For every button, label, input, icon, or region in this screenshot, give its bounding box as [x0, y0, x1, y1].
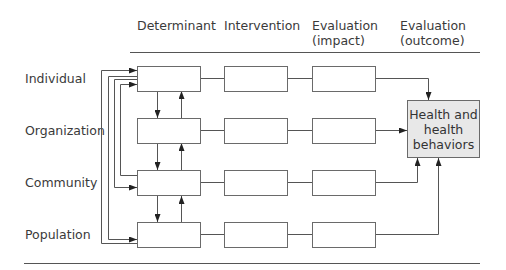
health-behaviors-box: Health and health behaviors	[407, 100, 480, 158]
evaluation-impact-box-community	[312, 170, 376, 196]
health-behaviors-line3: behaviors	[409, 137, 478, 152]
evaluation-impact-box-organization	[312, 118, 376, 144]
intervention-box-individual	[224, 66, 288, 92]
determinant-box-organization	[137, 118, 201, 144]
determinant-box-community	[137, 170, 201, 196]
intervention-box-community	[224, 170, 288, 196]
intervention-box-organization	[224, 118, 288, 144]
health-behaviors-line1: Health and	[409, 107, 478, 122]
determinant-box-population	[137, 222, 201, 248]
intervention-box-population	[224, 222, 288, 248]
health-behaviors-line2: health	[409, 122, 478, 137]
evaluation-impact-box-individual	[312, 66, 376, 92]
determinant-box-individual	[137, 66, 201, 92]
evaluation-impact-box-population	[312, 222, 376, 248]
